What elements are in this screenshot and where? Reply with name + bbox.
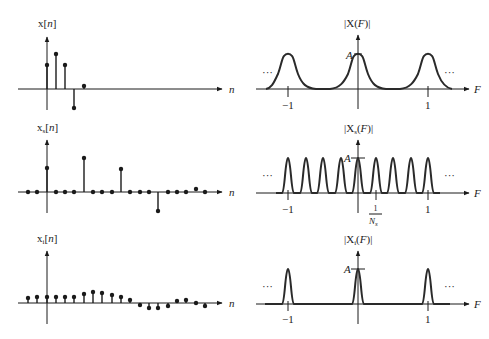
ellipsis-left: ··· bbox=[262, 169, 273, 181]
F-axis-label: F bbox=[473, 298, 481, 310]
tick-label-1: 1 bbox=[425, 203, 431, 215]
ellipsis-right: ··· bbox=[444, 280, 455, 292]
panel-title: |Xi(F)| bbox=[344, 233, 372, 247]
panel-X-F: |X(F)| F A −1 1 ··· ··· bbox=[256, 17, 481, 111]
ellipsis-left: ··· bbox=[262, 280, 273, 292]
sampling-figure: x[n] n |X(F)| F A −1 1 ··· ··· xs[n] n bbox=[0, 0, 489, 339]
tick-label-1: 1 bbox=[425, 313, 431, 325]
F-axis-label: F bbox=[473, 187, 481, 199]
svg-text:1: 1 bbox=[374, 204, 378, 213]
panel-title: x[n] bbox=[38, 17, 56, 29]
tick-label-minus-1: −1 bbox=[282, 313, 294, 325]
ellipsis-right: ··· bbox=[444, 66, 455, 78]
panel-x-n: x[n] n bbox=[18, 17, 235, 110]
stems bbox=[26, 290, 207, 310]
stems bbox=[45, 52, 86, 110]
n-axis-label: n bbox=[229, 83, 235, 95]
n-axis-label: n bbox=[229, 297, 235, 309]
panel-Xs-F: |Xs(F)| F A −1 1 1 Ns ··· ··· bbox=[256, 122, 481, 228]
spectrum-curve bbox=[266, 54, 452, 89]
panel-title: xs[n] bbox=[37, 121, 58, 135]
tick-label-minus-1: −1 bbox=[282, 99, 294, 111]
panel-title: xi[n] bbox=[37, 232, 57, 246]
stems bbox=[26, 156, 207, 213]
peak-label-A: A bbox=[343, 263, 351, 275]
svg-text:Ns: Ns bbox=[368, 216, 378, 228]
F-axis-label: F bbox=[473, 83, 481, 95]
tick-label-1-over-Ns: 1 Ns bbox=[368, 204, 382, 228]
panel-title: |X(F)| bbox=[344, 17, 370, 30]
ellipsis-right: ··· bbox=[444, 169, 455, 181]
tick-label-minus-1: −1 bbox=[282, 203, 294, 215]
ellipsis-left: ··· bbox=[262, 66, 273, 78]
n-axis-label: n bbox=[229, 186, 235, 198]
panel-xs-n: xs[n] n bbox=[18, 121, 235, 213]
peak-label-A: A bbox=[343, 152, 351, 164]
panel-title: |Xs(F)| bbox=[344, 122, 373, 136]
panel-xi-n: xi[n] n bbox=[18, 232, 235, 324]
tick-label-1: 1 bbox=[425, 99, 431, 111]
panel-Xi-F: |Xi(F)| F A −1 1 ··· ··· bbox=[256, 233, 481, 325]
